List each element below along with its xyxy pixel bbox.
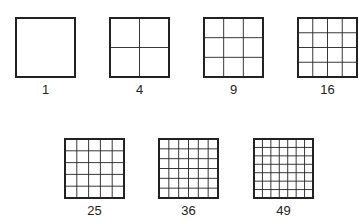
grid-1x1 [15,17,76,78]
grid-4x4 [297,17,358,78]
grid-6x6 [158,138,219,199]
grid-figure-4 [109,17,170,78]
grid-figure-9 [203,17,264,78]
grid-figure-25 [64,138,125,199]
grid-figure-49 [253,138,314,199]
grid-label: 36 [149,204,229,218]
grid-figure-1 [15,17,76,78]
grid-label: 16 [288,83,359,97]
grid-label: 25 [55,204,135,218]
grid-5x5 [64,138,125,199]
grid-2x2 [109,17,170,78]
grid-figure-16 [297,17,358,78]
grid-3x3 [203,17,264,78]
grid-label: 49 [244,204,324,218]
grid-label: 4 [100,83,180,97]
grid-7x7 [253,138,314,199]
grid-label: 1 [6,83,86,97]
grid-label: 9 [194,83,274,97]
grid-figure-36 [158,138,219,199]
